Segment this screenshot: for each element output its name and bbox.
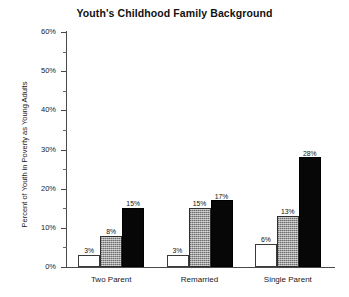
x-axis-line <box>66 267 335 268</box>
plot-area: 3%8%15%3%15%17%6%13%28% <box>67 32 332 267</box>
y-tick-label: 50% <box>16 67 56 75</box>
bar-value-label: 3% <box>173 248 183 255</box>
bar-value-label: 8% <box>106 229 116 236</box>
chart-title: Youth's Childhood Family Background <box>0 7 349 19</box>
y-tick-label: 20% <box>16 185 56 193</box>
bar-black-1: 17% <box>211 200 233 267</box>
y-tick-label: 10% <box>16 224 56 232</box>
y-tick-label: 60% <box>16 28 56 36</box>
y-tick-major <box>61 267 67 268</box>
bar-value-label: 17% <box>215 194 229 201</box>
bar-gray-0: 8% <box>100 236 122 267</box>
bar-white-1: 3% <box>167 255 189 267</box>
bar-white-0: 3% <box>78 255 100 267</box>
bar-gray-2: 13% <box>277 216 299 267</box>
bar-black-2: 28% <box>299 157 321 267</box>
category-label-1: Remarried <box>155 275 243 284</box>
y-tick-label: 30% <box>16 146 56 154</box>
y-tick-label: 0% <box>16 263 56 271</box>
category-label-2: Single Parent <box>244 275 332 284</box>
bar-value-label: 28% <box>303 151 317 158</box>
bar-black-0: 15% <box>122 208 144 267</box>
y-tick-label: 40% <box>16 106 56 114</box>
category-label-0: Two Parent <box>67 275 155 284</box>
bar-value-label: 15% <box>193 201 207 208</box>
bar-value-label: 6% <box>261 237 271 244</box>
bar-white-2: 6% <box>255 244 277 268</box>
bar-value-label: 3% <box>84 248 94 255</box>
bar-value-label: 13% <box>281 209 295 216</box>
bar-chart: Youth's Childhood Family Background Perc… <box>0 0 349 297</box>
bar-value-label: 15% <box>126 201 140 208</box>
bar-gray-1: 15% <box>189 208 211 267</box>
